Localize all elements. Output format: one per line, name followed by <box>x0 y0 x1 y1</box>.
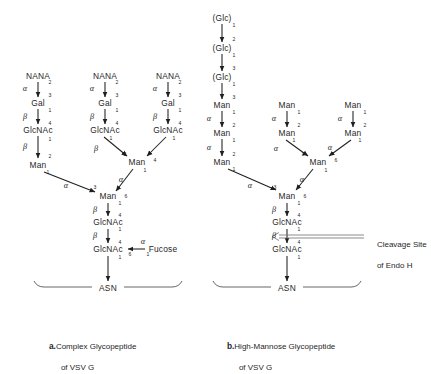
linkage-number-panel_a-28: 1 <box>119 255 122 260</box>
anomeric-symbol-panel_b-3: α <box>338 115 342 123</box>
anomeric-symbol-panel_a-5: β <box>94 145 98 153</box>
linkage-number-panel_b-13: 1 <box>293 138 296 143</box>
caption-b-line1: High-Mannose Glycopeptide <box>234 342 335 351</box>
linkage-number-panel_b-0: 1 <box>233 23 236 28</box>
linkage-number-panel_b-10: 1 <box>233 167 236 172</box>
linkage-number-panel_a-23: 4 <box>119 213 122 218</box>
caption-a-label: a. <box>49 341 56 351</box>
sugar-node-b_asn: ASN <box>278 284 296 292</box>
linkage-number-panel_a-11: 2 <box>124 152 127 157</box>
linkage-number-panel_a-24: 1 <box>119 227 122 232</box>
sugar-node-a_man1: Man <box>30 161 47 169</box>
sugar-node-a_gn1: GlcNAc <box>23 126 53 134</box>
anomeric-symbol-panel_a-9: α <box>119 176 123 184</box>
sugar-node-b_man6: Man <box>345 101 362 109</box>
anomeric-symbol-panel_b-9: β <box>272 232 276 240</box>
sugar-node-b_gn2: GlcNAc <box>272 245 302 253</box>
sugar-node-b_man8: Man <box>310 158 327 166</box>
anomeric-symbol-panel_a-4: β <box>90 113 94 121</box>
linkage-number-panel_a-4: 1 <box>49 137 52 142</box>
linkage-number-panel_b-11: 1 <box>298 110 301 115</box>
linkage-number-panel_b-7: 2 <box>233 123 236 128</box>
anomeric-symbol-panel_a-8: α <box>64 182 68 190</box>
caption-panel-b: b.High-Mannose Glycopeptide of VSV G <box>218 330 335 374</box>
sugar-node-b_man1: Man <box>214 101 231 109</box>
sugar-node-a_gal2: Gal <box>98 99 112 107</box>
linkage-number-panel_b-17: 3 <box>302 152 305 157</box>
caption-panel-a: a.Complex Glycopeptide of VSV G <box>40 330 136 374</box>
linkage-number-panel_a-25: 4 <box>119 240 122 245</box>
anomeric-symbol-panel_a-12: α <box>141 238 145 246</box>
linkage-number-panel_a-6: 2 <box>116 80 119 85</box>
linkage-number-panel_a-8: 1 <box>116 108 119 113</box>
sugar-node-a_gn4: GlcNAc <box>93 218 123 226</box>
caption-a-line1: Complex Glycopeptide <box>56 342 136 351</box>
linkage-number-panel_a-16: 1 <box>173 136 176 141</box>
linkage-number-panel_b-24: 1 <box>298 227 301 232</box>
cleavage-pointer <box>272 233 364 241</box>
sugar-node-a_nana1: NANA <box>26 72 50 80</box>
anomeric-symbol-panel_b-1: α <box>207 144 211 152</box>
sugar-node-b_man9: Man <box>279 192 296 200</box>
linkage-number-panel_b-16: 1 <box>359 138 362 143</box>
sugar-node-a_man2: Man <box>129 158 146 166</box>
sugar-node-b_man2: Man <box>214 129 231 137</box>
linkage-number-panel_a-0: 2 <box>49 80 52 85</box>
linkage-number-panel_a-20: 3 <box>94 185 97 190</box>
linkage-number-panel_a-5: 2 <box>49 154 52 159</box>
linkage-number-panel_b-4: 1 <box>233 82 236 87</box>
anomeric-symbol-panel_b-5: α <box>274 145 278 153</box>
anomeric-symbol-panel_b-6: α <box>328 144 332 152</box>
linkage-number-panel_b-23: 4 <box>298 213 301 218</box>
sugar-node-a_gn2: GlcNAc <box>90 126 120 134</box>
sugar-node-a_asn: ASN <box>99 284 117 292</box>
linkage-number-panel_b-12: 2 <box>298 123 301 128</box>
cleavage-line1: Cleavage Site <box>377 240 427 249</box>
cleavage-line2: of Endo H <box>377 261 413 270</box>
sugar-node-b_man7: Man <box>345 129 362 137</box>
sugar-node-b_man5: Man <box>279 129 296 137</box>
linkage-number-panel_b-21: 6 <box>304 194 307 199</box>
linkage-number-panel_b-19: 1 <box>325 168 328 173</box>
sugar-node-b_gn1: GlcNAc <box>272 218 302 226</box>
anomeric-symbol-panel_a-11: β <box>93 232 97 240</box>
anomeric-symbol-panel_a-10: β <box>93 206 97 214</box>
sugar-node-b_glc2: (Glc) <box>212 44 231 52</box>
anomeric-symbol-panel_a-6: α <box>153 85 157 93</box>
linkage-number-panel_a-1: 3 <box>49 93 52 98</box>
anomeric-symbol-panel_a-1: β <box>23 113 27 121</box>
sugar-node-b_glc1: (Glc) <box>212 14 231 22</box>
linkage-number-panel_a-10: 1 <box>110 136 113 141</box>
linkage-number-panel_b-6: 1 <box>233 110 236 115</box>
sugar-node-a_man3: Man <box>100 192 117 200</box>
linkage-number-panel_a-21: 6 <box>125 194 128 199</box>
sugar-node-b_man3: Man <box>214 158 231 166</box>
linkage-number-panel_b-15: 2 <box>364 123 367 128</box>
linkage-number-panel_a-27: 1 <box>147 252 150 257</box>
sugar-node-a_gal3: Gal <box>161 99 175 107</box>
sugar-node-b_man4: Man <box>279 101 296 109</box>
linkage-number-panel_a-13: 3 <box>179 93 182 98</box>
linkage-number-panel_a-14: 1 <box>179 108 182 113</box>
linkage-number-panel_a-26: 6 <box>129 252 132 257</box>
cleavage-site-label: Cleavage Site of Endo H <box>368 229 427 283</box>
sugar-node-a_gn3: GlcNAc <box>153 126 183 134</box>
linkage-number-panel_b-14: 1 <box>364 110 367 115</box>
sugar-node-a_gal1: Gal <box>31 99 45 107</box>
linkage-number-panel_a-9: 4 <box>116 121 119 126</box>
linkage-number-panel_a-15: 4 <box>179 121 182 126</box>
linkage-number-panel_b-3: 3 <box>233 66 236 71</box>
linkage-number-panel_b-1: 2 <box>233 37 236 42</box>
sugar-node-a_nana2: NANA <box>93 72 117 80</box>
sugar-node-a_gn5: GlcNAc <box>93 245 123 253</box>
anomeric-symbol-panel_b-7: α <box>300 176 304 184</box>
anomeric-symbol-panel_a-0: α <box>23 85 27 93</box>
sugar-node-a_nana3: NANA <box>156 72 180 80</box>
sugar-node-a_fuc: Fucose <box>149 245 178 253</box>
anomeric-symbol-panel_a-3: α <box>90 85 94 93</box>
anomeric-symbol-panel_b-8: β <box>272 206 276 214</box>
linkage-number-panel_a-7: 3 <box>116 93 119 98</box>
linkage-number-panel_b-20: 3 <box>274 185 277 190</box>
linkage-number-panel_a-3: 4 <box>49 121 52 126</box>
